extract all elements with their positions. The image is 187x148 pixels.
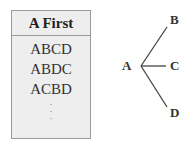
tree-child-label-b: B [170,12,179,28]
tree-root-label: A [122,58,131,74]
tree-child-label-d: D [170,105,179,121]
tree-child-label-c: C [170,58,179,74]
tree-branches [0,0,187,148]
